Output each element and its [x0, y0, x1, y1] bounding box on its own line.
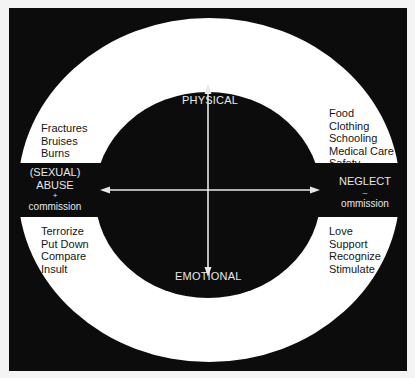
list-item: Recognize	[329, 250, 381, 263]
neglect-title: NEGLECT	[327, 175, 403, 188]
axis-label-physical: PHYSICAL	[182, 94, 238, 106]
abuse-title-line2: ABUSE	[15, 179, 95, 192]
diagram-frame: PHYSICAL EMOTIONAL Fractures Bruises Bur…	[9, 8, 407, 371]
abuse-physical-list: Fractures Bruises Burns	[41, 122, 87, 160]
list-item: Clothing	[329, 120, 394, 133]
list-item: Terrorize	[41, 225, 89, 238]
neglect-label-block: NEGLECT – ommission	[327, 175, 403, 210]
list-item: Compare	[41, 250, 89, 263]
list-item: Bruises	[41, 135, 87, 148]
list-item: Medical Care	[329, 145, 394, 158]
list-item: Food	[329, 107, 394, 120]
list-item: Fractures	[41, 122, 87, 135]
axis-label-emotional: EMOTIONAL	[175, 270, 242, 282]
plus-sign: +	[15, 191, 95, 201]
minus-sign: –	[327, 188, 403, 198]
list-item: Support	[329, 238, 381, 251]
neglect-emotional-list: Love Support Recognize Stimulate	[329, 225, 381, 275]
list-item: Love	[329, 225, 381, 238]
abuse-title-line1: (SEXUAL)	[15, 166, 95, 179]
commission-label: commission	[15, 201, 95, 214]
neglect-physical-list: Food Clothing Schooling Medical Care Saf…	[329, 107, 394, 170]
list-item: Schooling	[329, 132, 394, 145]
list-item: Burns	[41, 147, 87, 160]
ommission-label: ommission	[327, 198, 403, 211]
list-item: Put Down	[41, 238, 89, 251]
list-item: Safety	[329, 157, 394, 170]
list-item: Insult	[41, 263, 89, 276]
abuse-label-block: (SEXUAL) ABUSE + commission	[15, 166, 95, 214]
list-item: Stimulate	[329, 263, 381, 276]
abuse-emotional-list: Terrorize Put Down Compare Insult	[41, 225, 89, 275]
